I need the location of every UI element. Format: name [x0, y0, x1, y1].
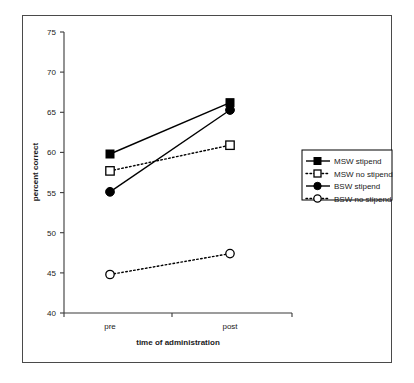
datapoint-msw-stipend-post — [226, 99, 234, 107]
datapoint-msw-no-stipend-post — [226, 141, 234, 149]
x-tick-label-pre: pre — [104, 322, 116, 331]
series-line-msw-stipend — [110, 103, 230, 154]
legend-item-msw-no-stipend[interactable]: MSW no stipend — [306, 170, 393, 179]
legend-item-msw-stipend[interactable]: MSW stipend — [306, 157, 382, 166]
y-tick-label-50: 50 — [47, 229, 56, 238]
datapoint-bsw-no-stipend-post — [226, 249, 234, 257]
series-line-msw-no-stipend — [110, 145, 230, 171]
y-tick-label-75: 75 — [47, 28, 56, 37]
y-axis-title: percent correct — [31, 143, 40, 202]
legend-marker-filled-circle-icon — [314, 182, 321, 189]
x-tick-label-post: post — [222, 322, 238, 331]
series-line-bsw-no-stipend — [110, 254, 230, 275]
y-tick-label-70: 70 — [47, 68, 56, 77]
legend-label-msw-no-stipend: MSW no stipend — [334, 170, 393, 179]
legend-item-bsw-no-stipend[interactable]: BSW no stipend — [306, 195, 391, 204]
legend-item-bsw-stipend[interactable]: BSW stipend — [306, 182, 380, 191]
y-tick-label-45: 45 — [47, 269, 56, 278]
y-tick-label-40: 40 — [47, 309, 56, 318]
datapoint-msw-no-stipend-pre — [106, 167, 114, 175]
chart-legend: MSW stipend MSW no stipend BSW stipend B… — [302, 150, 393, 204]
datapoint-msw-stipend-pre — [106, 150, 114, 158]
legend-marker-filled-square-icon — [314, 158, 321, 165]
legend-marker-open-circle-icon — [314, 195, 321, 202]
chart-canvas: 75 70 65 60 55 50 45 40 percent correct … — [0, 0, 414, 383]
chart-figure: 75 70 65 60 55 50 45 40 percent correct … — [0, 0, 414, 383]
y-tick-label-55: 55 — [47, 189, 56, 198]
datapoint-bsw-stipend-pre — [106, 187, 115, 196]
y-tick-label-65: 65 — [47, 108, 56, 117]
legend-label-msw-stipend: MSW stipend — [334, 157, 382, 166]
legend-label-bsw-stipend: BSW stipend — [334, 182, 380, 191]
y-tick-label-60: 60 — [47, 148, 56, 157]
series-line-bsw-stipend — [110, 110, 230, 192]
legend-label-bsw-no-stipend: BSW no stipend — [334, 195, 391, 204]
datapoint-bsw-no-stipend-pre — [106, 270, 114, 278]
legend-marker-open-square-icon — [314, 170, 321, 177]
x-axis-title: time of administration — [136, 338, 220, 347]
